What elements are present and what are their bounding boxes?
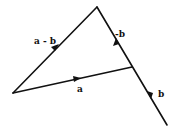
label-a: a xyxy=(77,84,83,94)
vector-diagram: a - b a -b b xyxy=(0,0,175,133)
vector-a-minus-b xyxy=(13,7,97,93)
label-a-minus-b: a - b xyxy=(34,36,56,46)
label-neg-b: -b xyxy=(115,29,125,39)
vector-a xyxy=(13,67,132,93)
label-b: b xyxy=(158,89,164,99)
line-a xyxy=(13,67,132,93)
vector-b-line xyxy=(97,7,167,125)
line-b xyxy=(97,7,167,125)
